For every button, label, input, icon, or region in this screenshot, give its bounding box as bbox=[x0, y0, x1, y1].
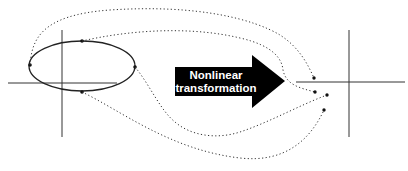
curve-left-to-mapped bbox=[30, 9, 314, 78]
nonlinear-transformation-diagram: Nonlinear transformation bbox=[0, 0, 408, 171]
mapped-point-left bbox=[312, 76, 315, 79]
mapped-point-top bbox=[313, 90, 316, 93]
left-axes bbox=[8, 30, 117, 137]
mapped-point-bottom bbox=[322, 108, 325, 111]
arrow-label-line1: Nonlinear bbox=[189, 69, 243, 81]
diagram-svg: Nonlinear transformation bbox=[0, 0, 408, 171]
curve-bottom-to-mapped bbox=[82, 92, 324, 159]
mapped-point-right bbox=[325, 93, 328, 96]
ellipse-points bbox=[28, 39, 137, 94]
transformation-arrow: Nonlinear transformation bbox=[175, 55, 285, 108]
right-axes bbox=[296, 30, 405, 137]
arrow-label-line2: transformation bbox=[175, 82, 256, 94]
